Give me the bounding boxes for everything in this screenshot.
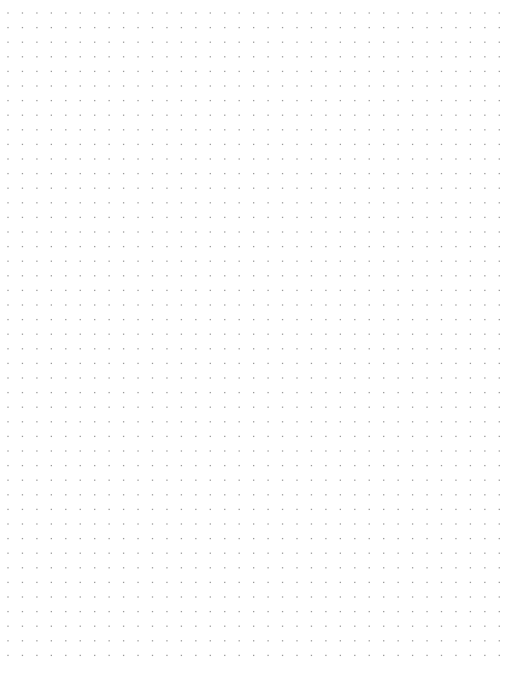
- dot-grid-page: [0, 0, 510, 684]
- dot-grid-pattern: [0, 0, 510, 684]
